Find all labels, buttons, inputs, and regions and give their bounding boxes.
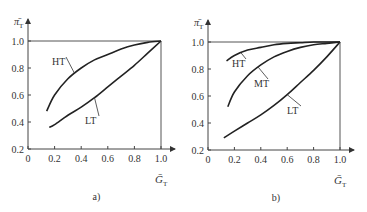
y-tick-label: 0.6 [192,91,205,102]
x-tick-label: 0 [206,154,211,165]
panel-label: a) [93,191,101,203]
series-label: LT [85,115,96,126]
figure: 0.20.40.60.81.000.20.40.60.81.0π̄TḠTa)HT… [0,0,367,212]
series-label: HT [232,58,245,69]
x-tick-label: 0.6 [102,153,115,164]
leader-line [66,57,75,73]
x-tick-label: 0.4 [75,153,88,164]
x-tick-label: 0.6 [281,154,294,165]
series-ht-line [47,41,161,111]
panel-label: b) [272,192,280,204]
y-tick-label: 0.4 [12,117,25,128]
x-axis-label: ḠT [334,174,347,189]
series-label: LT [287,105,298,116]
x-tick-label: 0 [26,153,31,164]
leader-line [95,98,100,116]
series-label: MT [254,78,269,89]
y-tick-label: 1.0 [192,37,205,48]
x-tick-label: 0.4 [255,154,268,165]
panel-a-chart: 0.20.40.60.81.000.20.40.60.81.0π̄TḠTa)HT… [12,16,176,203]
y-tick-label: 0.6 [12,90,25,101]
y-tick-label: 0.8 [192,64,205,75]
series-lt-line [224,42,340,138]
x-tick-label: 1.0 [334,154,347,165]
series-label: HT [52,56,65,67]
x-axis-label: ḠT [155,173,168,188]
x-tick-label: 0.8 [128,153,141,164]
y-tick-label: 1.0 [12,36,25,47]
y-axis-label: π̄T [194,17,204,31]
panel-b-chart: 0.20.40.60.81.000.20.40.60.81.0π̄TḠTb)HT… [192,17,355,204]
y-axis-label: π̄T [14,16,24,30]
y-tick-label: 0.8 [12,63,25,74]
y-tick-label: 0.2 [192,145,205,156]
y-tick-label: 0.4 [192,118,205,129]
series-lt-line [49,41,161,127]
x-tick-label: 0.8 [307,154,320,165]
x-tick-label: 1.0 [155,153,168,164]
x-tick-label: 0.2 [48,153,61,164]
y-tick-label: 0.2 [12,144,25,155]
x-tick-label: 0.2 [228,154,241,165]
